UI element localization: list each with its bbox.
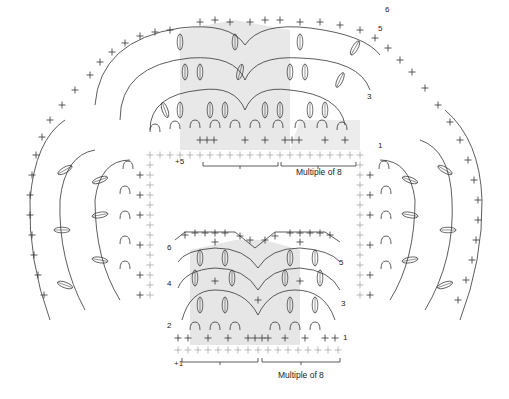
bottom-repeat-shading [190, 240, 300, 345]
bottom-row-number-4: 4 [167, 280, 171, 288]
bottom-row-number-1: 1 [343, 334, 347, 342]
bottom-edge-label: +1 [174, 360, 183, 368]
top-repeat-label: Multiple of 8 [296, 167, 342, 177]
bottom-row-number-5: 5 [339, 259, 343, 267]
top-row-number-1: 1 [378, 142, 382, 150]
top-row-number-5: 5 [378, 25, 382, 33]
bottom-repeat-brackets [182, 358, 340, 365]
bottom-row-number-6: 6 [167, 244, 171, 252]
bottom-row-number-3: 3 [341, 300, 345, 308]
top-edge-label: +5 [175, 158, 184, 166]
top-row-number-3: 3 [367, 93, 371, 101]
bottom-repeat-label: Multiple of 8 [278, 370, 324, 380]
top-row-number-6: 6 [385, 6, 389, 14]
crochet-stitch-diagram [0, 0, 509, 399]
bottom-chart [175, 230, 342, 366]
bottom-foundation-row [175, 347, 342, 354]
bottom-row-number-2: 2 [167, 322, 171, 330]
